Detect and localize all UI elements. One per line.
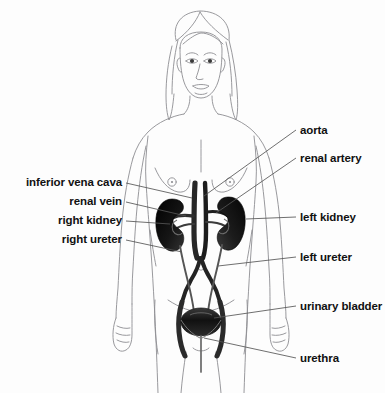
nipple-left-center: [171, 181, 173, 183]
label-left-kidney: left kidney: [300, 211, 356, 224]
label-renal-vein: renal vein: [0, 195, 122, 208]
label-right-kidney: right kidney: [0, 214, 122, 227]
label-right-ureter: right ureter: [0, 233, 122, 246]
label-inferior-vena-cava: inferior vena cava: [0, 176, 122, 189]
label-urinary-bladder: urinary bladder: [300, 300, 382, 313]
label-left-ureter: left ureter: [300, 251, 352, 264]
inferior-vena-cava: [194, 183, 197, 258]
label-renal-artery: renal artery: [300, 152, 361, 165]
nipple-right-center: [229, 181, 231, 183]
pupil-left: [190, 59, 194, 63]
label-aorta: aorta: [300, 124, 328, 137]
pupil-right: [208, 59, 212, 63]
label-urethra: urethra: [300, 352, 339, 365]
urinary-bladder: [181, 308, 221, 336]
